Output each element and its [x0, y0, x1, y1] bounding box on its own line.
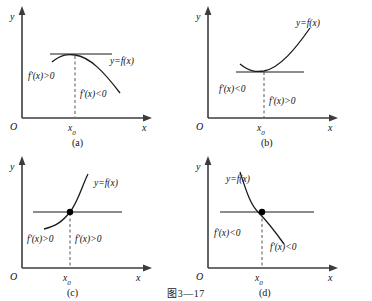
x-axis-label-d: x [327, 272, 333, 283]
x-axis-d [208, 265, 338, 272]
left-sign-label-d: f'(x)<0 [214, 228, 241, 239]
origin-label-b: O [196, 121, 203, 132]
y-axis-c [19, 156, 26, 268]
critical-point-label-a: x0 [67, 123, 76, 137]
panel-a: y x O y=f(x) f'(x)>0 f'(x)<0 x0 (a) [0, 0, 186, 150]
curve-label-c: y=f(x) [93, 178, 118, 189]
y-axis-label-a: y [9, 11, 15, 22]
curve-label-a: y=f(x) [109, 56, 134, 67]
y-axis-label-b: y [195, 11, 201, 22]
left-sign-label-a: f'(x)>0 [28, 71, 55, 82]
inflection-point-marker-d [259, 209, 265, 215]
panel-d: y x O y=f(x) f'(x)<0 f'(x)<0 x0 (d) [186, 150, 372, 300]
x-axis-label-c: x [135, 272, 141, 283]
x-axis-label-a: x [141, 122, 147, 133]
origin-label-a: O [10, 121, 17, 132]
x-axis-c [22, 265, 152, 272]
curve-label-b: y=f(x) [295, 18, 320, 29]
y-axis-label-d: y [195, 161, 201, 172]
critical-point-label-c: x0 [62, 273, 71, 287]
curve-c [44, 174, 88, 229]
y-axis-a [19, 6, 26, 118]
right-sign-label-a: f'(x)<0 [80, 89, 107, 100]
origin-label-d: O [196, 271, 203, 282]
origin-label-c: O [10, 271, 17, 282]
left-sign-label-b: f'(x)<0 [219, 84, 246, 95]
figure-container: y x O y=f(x) f'(x)>0 f'(x)<0 x0 (a) y x [0, 0, 372, 301]
right-sign-label-d: f'(x)<0 [270, 242, 297, 253]
curve-b [240, 28, 310, 71]
critical-point-label-d: x0 [254, 273, 263, 287]
caption-a: (a) [72, 137, 83, 149]
y-axis-d [205, 156, 212, 268]
panel-c: y x O y=f(x) f'(x)>0 f'(x)>0 x0 (c) [0, 150, 186, 300]
x-axis-label-b: x [327, 122, 333, 133]
left-sign-label-c: f'(x)>0 [27, 234, 54, 245]
right-sign-label-c: f'(x)>0 [75, 234, 102, 245]
figure-caption: 图3—17 [0, 286, 372, 301]
inflection-point-marker-c [67, 209, 73, 215]
y-axis-b [205, 6, 212, 118]
curve-label-d: y=f(x) [225, 174, 250, 185]
x-axis-b [208, 115, 338, 122]
right-sign-label-b: f'(x)>0 [269, 96, 296, 107]
y-axis-label-c: y [9, 161, 15, 172]
caption-b: (b) [261, 137, 273, 149]
critical-point-label-b: x0 [256, 123, 265, 137]
x-axis-a [22, 115, 152, 122]
panel-b: y x O y=f(x) f'(x)<0 f'(x)>0 x0 (b) [186, 0, 372, 150]
